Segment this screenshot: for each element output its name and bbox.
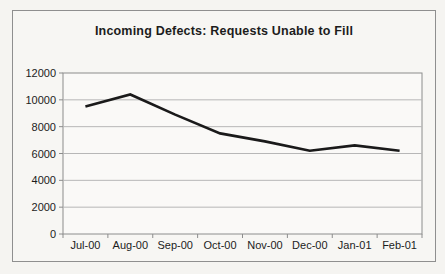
x-tick-label: Sep-00 [157, 239, 192, 251]
x-tick-label: Aug-00 [113, 239, 148, 251]
x-tick-label: Oct-00 [204, 239, 237, 251]
x-tick-label: Feb-01 [382, 239, 417, 251]
y-tick-label: 12000 [25, 67, 56, 79]
x-tick-label: Jan-01 [338, 239, 372, 251]
y-tick-label: 6000 [32, 148, 56, 160]
screenshot-root: Incoming Defects: Requests Unable to Fil… [0, 0, 445, 274]
y-tick-label: 2000 [32, 201, 56, 213]
x-tick-label: Jul-00 [70, 239, 100, 251]
chart-frame: Incoming Defects: Requests Unable to Fil… [12, 10, 436, 262]
y-tick-label: 10000 [25, 94, 56, 106]
y-tick-label: 0 [50, 228, 56, 240]
y-tick-label: 4000 [32, 174, 56, 186]
y-tick-label: 8000 [32, 121, 56, 133]
x-tick-label: Dec-00 [292, 239, 327, 251]
x-tick-label: Nov-00 [247, 239, 282, 251]
line-chart-plot: 020004000600080001000012000Jul-00Aug-00S… [13, 11, 435, 261]
